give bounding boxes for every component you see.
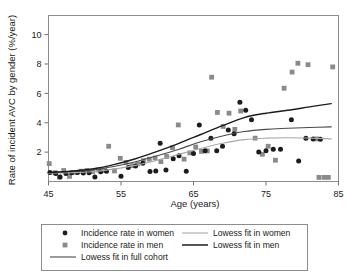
data-point-men <box>47 161 52 166</box>
data-point-women <box>148 169 153 174</box>
data-point-men <box>118 156 123 161</box>
legend-label: Lowess fit in women <box>213 228 291 238</box>
data-point-men <box>273 158 278 163</box>
data-point-women <box>191 151 196 156</box>
data-point-women <box>92 175 97 180</box>
data-point-men <box>227 111 232 116</box>
data-point-men <box>215 110 220 115</box>
data-point-women <box>163 168 168 173</box>
data-point-women <box>119 174 124 179</box>
data-point-women <box>249 117 254 122</box>
data-point-women <box>226 128 231 133</box>
data-point-women <box>318 137 323 142</box>
data-point-men <box>317 175 322 180</box>
data-point-women <box>214 148 219 153</box>
x-tick-label: 45 <box>43 189 53 199</box>
legend-glyph-square-marker <box>63 243 68 248</box>
legend-label: Lowess fit in men <box>213 240 280 250</box>
data-point-women <box>98 169 103 174</box>
data-point-women <box>289 117 294 122</box>
data-point-women <box>158 141 163 146</box>
data-point-men <box>193 145 198 150</box>
data-point-women <box>153 168 158 173</box>
data-point-men <box>296 61 301 66</box>
data-point-men <box>182 157 187 162</box>
data-point-men <box>266 144 271 149</box>
y-tick-label: 2 <box>36 147 41 157</box>
data-point-women <box>311 136 316 141</box>
data-point-men <box>326 175 331 180</box>
data-point-men <box>176 123 181 128</box>
y-tick-label: 4 <box>36 118 41 128</box>
data-point-women <box>184 169 189 174</box>
data-point-women <box>171 156 176 161</box>
x-tick-label: 75 <box>261 189 271 199</box>
y-tick-label: 6 <box>36 89 41 99</box>
data-point-women <box>243 108 248 113</box>
chart-svg: Rate of incident AVC by gender (%/year) … <box>0 0 349 278</box>
data-point-women <box>197 122 202 127</box>
x-tick-label: 85 <box>333 189 343 199</box>
y-axis-title: Rate of incident AVC by gender (%/year) <box>6 15 17 185</box>
data-point-women <box>58 175 63 180</box>
data-point-women <box>256 150 261 155</box>
legend-glyph-circle-marker <box>63 231 68 236</box>
x-tick-label: 55 <box>116 189 126 199</box>
chart-figure: Rate of incident AVC by gender (%/year) … <box>0 0 349 278</box>
data-point-men <box>106 144 111 149</box>
data-point-women <box>271 147 276 152</box>
data-point-men <box>232 127 237 132</box>
legend-label: Incidence rate in women <box>81 228 174 238</box>
data-point-men <box>330 65 335 70</box>
data-point-men <box>238 109 243 114</box>
data-point-women <box>237 100 242 105</box>
legend-label: Incidence rate in men <box>81 240 163 250</box>
data-point-men <box>306 62 311 67</box>
x-tick-label: 65 <box>188 189 198 199</box>
y-tick-label: 8 <box>36 59 41 69</box>
legend-label: Lowess fit in full cohort <box>81 252 169 262</box>
data-point-women <box>203 148 208 153</box>
y-tick-label: 10 <box>31 30 41 40</box>
data-point-women <box>264 148 269 153</box>
x-axis-title: Age (years) <box>170 198 219 209</box>
data-point-men <box>322 175 327 180</box>
data-point-women <box>278 147 283 152</box>
data-point-women <box>296 158 301 163</box>
data-point-women <box>220 144 225 149</box>
data-point-men <box>209 75 214 80</box>
data-point-men <box>282 86 287 91</box>
data-point-men <box>290 70 295 75</box>
